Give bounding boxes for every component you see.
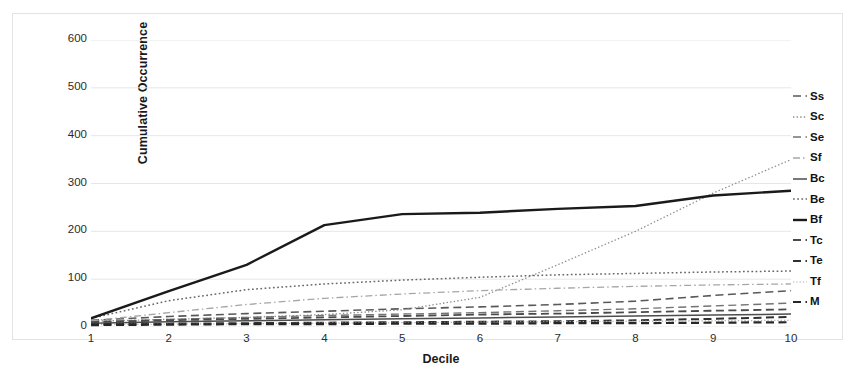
x-tick-label: 2 <box>154 332 184 344</box>
legend-label: Se <box>810 132 824 144</box>
legend-item-tf[interactable]: Tf <box>793 271 849 292</box>
y-tick-label: 400 <box>41 128 87 140</box>
legend-label: Sf <box>810 152 822 164</box>
x-tick-label: 4 <box>309 332 339 344</box>
legend-label: Be <box>810 194 825 206</box>
y-tick-label: 0 <box>41 319 87 331</box>
legend-item-te[interactable]: Te <box>793 251 849 272</box>
legend-swatch-icon <box>793 215 807 225</box>
x-tick-label: 8 <box>620 332 650 344</box>
x-axis-title: Decile <box>91 352 791 366</box>
y-tick-label: 300 <box>41 176 87 188</box>
x-tick-label: 3 <box>232 332 262 344</box>
legend-swatch-icon <box>793 174 807 184</box>
legend-item-tc[interactable]: Tc <box>793 230 849 251</box>
legend-swatch-icon <box>793 235 807 245</box>
legend-label: Ss <box>810 91 824 103</box>
legend-item-se[interactable]: Se <box>793 127 849 148</box>
legend-item-bf[interactable]: Bf <box>793 210 849 231</box>
legend-label: Bf <box>810 214 822 226</box>
legend-item-sc[interactable]: Sc <box>793 107 849 128</box>
x-tick-label: 9 <box>698 332 728 344</box>
y-tick-label: 600 <box>41 32 87 44</box>
plot-lines <box>91 40 791 327</box>
legend-swatch-icon <box>793 194 807 204</box>
x-tick-label: 10 <box>776 332 806 344</box>
legend: SsScSeSfBcBeBfTcTeTfM <box>793 86 849 313</box>
y-tick-label: 500 <box>41 80 87 92</box>
chart-screenshot: Cumulative Occurrence 010020030040050060… <box>0 0 858 375</box>
legend-label: Bc <box>810 173 825 185</box>
x-tick-label: 5 <box>387 332 417 344</box>
legend-swatch-icon <box>793 297 807 307</box>
chart-frame: Cumulative Occurrence 010020030040050060… <box>12 13 843 340</box>
x-tick-label: 1 <box>76 332 106 344</box>
legend-item-m[interactable]: M <box>793 292 849 313</box>
legend-label: Tc <box>810 235 823 247</box>
legend-swatch-icon <box>793 277 807 287</box>
legend-item-ss[interactable]: Ss <box>793 86 849 107</box>
series-line-bf <box>91 191 791 319</box>
y-tick-label: 200 <box>41 223 87 235</box>
x-tick-label: 7 <box>543 332 573 344</box>
legend-item-bc[interactable]: Bc <box>793 168 849 189</box>
plot-area: Cumulative Occurrence 010020030040050060… <box>91 40 791 327</box>
legend-label: Sc <box>810 111 824 123</box>
legend-label: M <box>810 296 820 308</box>
legend-swatch-icon <box>793 132 807 142</box>
legend-item-be[interactable]: Be <box>793 189 849 210</box>
legend-label: Tf <box>810 276 821 288</box>
legend-item-sf[interactable]: Sf <box>793 148 849 169</box>
y-tick-label: 100 <box>41 271 87 283</box>
legend-swatch-icon <box>793 91 807 101</box>
x-tick-label: 6 <box>465 332 495 344</box>
legend-label: Te <box>810 255 823 267</box>
legend-swatch-icon <box>793 153 807 163</box>
legend-swatch-icon <box>793 112 807 122</box>
legend-swatch-icon <box>793 256 807 266</box>
